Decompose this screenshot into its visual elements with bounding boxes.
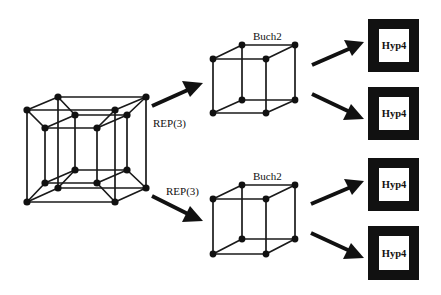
hyp4-label-2: Hyp4: [382, 108, 407, 119]
hyp4-label-4: Hyp4: [382, 248, 407, 259]
arrow-to-hyp4-1: [312, 40, 364, 65]
arrow-to-hyp4-4: [311, 233, 364, 259]
arrow-to-top-cube: REP(3): [152, 81, 203, 130]
hyp4-box-3: Hyp4: [368, 158, 419, 211]
arrow-to-bottom-cube: REP(3): [152, 185, 203, 222]
rep-label-bottom: REP(3): [166, 185, 199, 198]
hypercube-node: [23, 93, 149, 205]
cube-label-top: Buch2: [253, 30, 282, 42]
hyp4-box-4: Hyp4: [368, 226, 419, 280]
hyp4-box-2: Hyp4: [368, 87, 419, 140]
arrow-to-hyp4-2: [312, 94, 364, 120]
cube-node-bottom: Buch2: [210, 170, 299, 257]
rep-label-top: REP(3): [153, 117, 186, 130]
hyp4-box-1: Hyp4: [368, 19, 419, 72]
arrow-to-hyp4-3: [311, 179, 364, 204]
decomposition-diagram: REP(3) REP(3) Buch2: [0, 0, 441, 295]
cube-node-top: Buch2: [210, 30, 299, 116]
hyp4-label-1: Hyp4: [382, 40, 407, 51]
hyp4-label-3: Hyp4: [382, 179, 407, 190]
cube-label-bottom: Buch2: [253, 170, 282, 182]
